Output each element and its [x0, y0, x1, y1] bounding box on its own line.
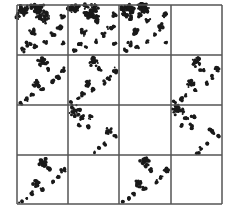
- dot: [189, 79, 193, 83]
- dot: [94, 10, 97, 13]
- dot: [143, 159, 145, 161]
- dot: [212, 131, 214, 133]
- dot: [46, 12, 49, 15]
- dot: [44, 157, 48, 161]
- dot: [185, 95, 187, 97]
- dot: [186, 83, 188, 85]
- dot: [36, 59, 39, 62]
- dot: [112, 43, 114, 45]
- dot: [26, 197, 28, 199]
- dot: [102, 79, 105, 82]
- dot: [76, 9, 79, 12]
- dot: [206, 83, 208, 85]
- dot: [95, 19, 99, 23]
- dot: [78, 97, 81, 100]
- dot: [40, 10, 42, 12]
- dot: [132, 32, 136, 36]
- dot: [74, 6, 77, 9]
- dot: [135, 45, 139, 49]
- dot: [175, 106, 177, 108]
- dot: [24, 99, 27, 102]
- dot: [33, 84, 37, 88]
- dot: [121, 12, 124, 15]
- dot: [26, 12, 28, 14]
- dot: [32, 30, 36, 34]
- dot: [107, 76, 109, 78]
- dot: [80, 42, 83, 45]
- dot: [217, 70, 220, 73]
- dot: [21, 11, 24, 14]
- dot: [40, 187, 42, 189]
- dot: [42, 189, 45, 192]
- dot: [94, 40, 97, 43]
- dot: [123, 9, 125, 11]
- dot: [194, 89, 196, 91]
- block-matrix-figure: [0, 0, 230, 208]
- dot: [85, 12, 88, 15]
- dot: [104, 144, 106, 146]
- dot: [77, 44, 79, 46]
- dot: [44, 41, 48, 45]
- dot: [89, 64, 92, 67]
- dot: [69, 112, 71, 114]
- dot: [136, 183, 139, 186]
- dot: [95, 59, 98, 62]
- dot: [46, 18, 48, 20]
- dot: [42, 88, 45, 91]
- dot: [156, 179, 158, 181]
- dot: [35, 81, 37, 83]
- dot: [147, 41, 149, 43]
- dot: [122, 200, 125, 203]
- dot: [199, 68, 202, 71]
- dot: [40, 56, 44, 60]
- dot: [81, 91, 84, 94]
- dot: [50, 80, 54, 84]
- dot: [102, 34, 106, 38]
- dot: [47, 168, 50, 171]
- dot: [88, 80, 91, 83]
- dot: [57, 77, 60, 80]
- dot: [139, 186, 141, 188]
- dot: [150, 168, 152, 170]
- dot: [130, 42, 132, 44]
- dot: [185, 93, 187, 95]
- dot: [166, 41, 168, 43]
- dot: [114, 67, 116, 69]
- dot: [26, 42, 28, 44]
- dot: [110, 127, 113, 130]
- dot: [133, 28, 137, 32]
- dot: [199, 148, 202, 151]
- dot: [20, 47, 24, 51]
- dot: [20, 6, 22, 8]
- dot: [126, 14, 129, 17]
- dot: [158, 26, 162, 30]
- dot: [69, 7, 72, 10]
- dot: [213, 133, 216, 136]
- dot: [42, 41, 44, 43]
- dot: [35, 16, 37, 18]
- dot: [52, 181, 54, 183]
- dot: [211, 77, 214, 80]
- dot: [35, 79, 37, 81]
- dot: [79, 125, 81, 127]
- dot: [31, 93, 35, 97]
- dot: [93, 151, 95, 153]
- dot: [112, 25, 115, 28]
- dot: [29, 192, 33, 196]
- dot: [97, 146, 100, 149]
- dot: [194, 59, 196, 61]
- dot: [82, 114, 85, 117]
- dot: [89, 118, 91, 120]
- dot: [30, 44, 32, 46]
- dot: [33, 45, 37, 49]
- cells-layer: [15, 2, 221, 204]
- dot: [87, 6, 90, 9]
- cell-3-0-sparse: [18, 157, 66, 203]
- dot: [129, 44, 132, 47]
- dot: [163, 169, 165, 171]
- dot: [127, 196, 131, 200]
- dot: [89, 12, 92, 15]
- dot: [71, 101, 73, 103]
- dot: [135, 180, 138, 183]
- dot: [47, 69, 50, 72]
